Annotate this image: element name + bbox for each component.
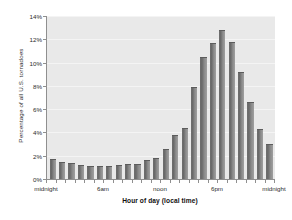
bar-slot [152, 16, 161, 179]
bar-slot [105, 16, 114, 179]
plot-area [47, 16, 275, 179]
x-tick-mark [141, 180, 142, 183]
plot-frame [46, 16, 275, 180]
x-tick-mark [179, 180, 180, 183]
bar [266, 144, 272, 179]
bar-slot [86, 16, 95, 179]
bar [238, 72, 244, 179]
y-tick-label: 4% [0, 129, 42, 136]
tornado-hour-histogram: Percentage of all U.S. tornadoes 0%2%4%6… [0, 0, 292, 220]
bar [191, 87, 197, 179]
y-tick-label: 10% [0, 59, 42, 66]
x-tick-mark [208, 180, 209, 183]
x-tick-label: 6pm [211, 185, 223, 192]
bar [116, 165, 122, 179]
bar [153, 158, 159, 179]
y-tick-mark [43, 156, 46, 157]
bar-slot [218, 16, 227, 179]
bar-slot [161, 16, 170, 179]
bar-slot [170, 16, 179, 179]
bar [172, 135, 178, 179]
x-tick-mark [56, 180, 57, 183]
x-tick-mark [65, 180, 66, 183]
bar-slot [133, 16, 142, 179]
bar-slot [180, 16, 189, 179]
x-tick-mark [255, 180, 256, 183]
bar-slot [76, 16, 85, 179]
bar [210, 43, 216, 179]
bar-slot [123, 16, 132, 179]
bar-slot [189, 16, 198, 179]
bar-slot [142, 16, 151, 179]
bar-series [47, 16, 275, 179]
y-tick-mark [43, 132, 46, 133]
bar [229, 42, 235, 179]
y-tick-label: 2% [0, 152, 42, 159]
x-tick-mark [274, 180, 275, 183]
bar-slot [255, 16, 264, 179]
x-tick-mark [170, 180, 171, 183]
bar [106, 166, 112, 179]
x-tick-label: noon [153, 185, 167, 192]
y-tick-mark [43, 86, 46, 87]
x-tick-mark [198, 180, 199, 183]
y-tick-mark [43, 39, 46, 40]
y-tick-mark [43, 109, 46, 110]
bar-slot [265, 16, 274, 179]
bar [78, 165, 84, 179]
bar [134, 164, 140, 179]
x-tick-mark [246, 180, 247, 183]
x-tick-mark [265, 180, 266, 183]
x-tick-mark [151, 180, 152, 183]
x-tick-mark [94, 180, 95, 183]
x-tick-mark [217, 180, 218, 183]
x-tick-mark [113, 180, 114, 183]
bar [144, 160, 150, 179]
y-tick-mark [43, 16, 46, 17]
y-tick-label: 12% [0, 36, 42, 43]
x-tick-mark [160, 180, 161, 183]
x-tick-mark [227, 180, 228, 183]
x-axis-title: Hour of day (local time) [46, 197, 274, 204]
y-tick-label: 6% [0, 106, 42, 113]
y-tick-label: 0% [0, 176, 42, 183]
bar [219, 30, 225, 179]
x-tick-mark [122, 180, 123, 183]
x-tick-mark [236, 180, 237, 183]
bar-slot [199, 16, 208, 179]
bar [97, 166, 103, 179]
bar-slot [48, 16, 57, 179]
bar-slot [236, 16, 245, 179]
x-tick-mark [103, 180, 104, 183]
bar [257, 129, 263, 179]
bar-slot [114, 16, 123, 179]
x-tick-mark [46, 180, 47, 183]
bar [50, 159, 56, 179]
bar [68, 163, 74, 179]
x-tick-mark [84, 180, 85, 183]
x-tick-label: 6am [97, 185, 109, 192]
bar-slot [57, 16, 66, 179]
bar [182, 128, 188, 179]
y-tick-label: 14% [0, 13, 42, 20]
y-tick-mark [43, 63, 46, 64]
x-tick-label: midnight [262, 185, 285, 192]
bar [200, 57, 206, 179]
bar-slot [246, 16, 255, 179]
bar-slot [67, 16, 76, 179]
x-tick-mark [75, 180, 76, 183]
bar [247, 102, 253, 179]
bar [125, 164, 131, 179]
y-tick-label: 8% [0, 82, 42, 89]
bar-slot [227, 16, 236, 179]
bar [163, 149, 169, 179]
x-tick-mark [189, 180, 190, 183]
bar-slot [95, 16, 104, 179]
x-tick-mark [132, 180, 133, 183]
bar [59, 162, 65, 179]
x-tick-label: midnight [34, 185, 57, 192]
bar-slot [208, 16, 217, 179]
bar [87, 166, 93, 179]
